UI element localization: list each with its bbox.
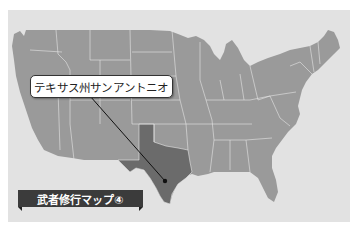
- location-callout: テキサス州サンアントニオ: [30, 75, 173, 98]
- banner-fold-right: [139, 207, 143, 211]
- location-marker-san-antonio: [163, 179, 167, 183]
- banner-fold-left: [18, 207, 22, 211]
- title-banner: 武者修行マップ④: [18, 190, 143, 207]
- callout-label: テキサス州サンアントニオ: [34, 79, 168, 95]
- banner-label: 武者修行マップ④: [37, 191, 123, 207]
